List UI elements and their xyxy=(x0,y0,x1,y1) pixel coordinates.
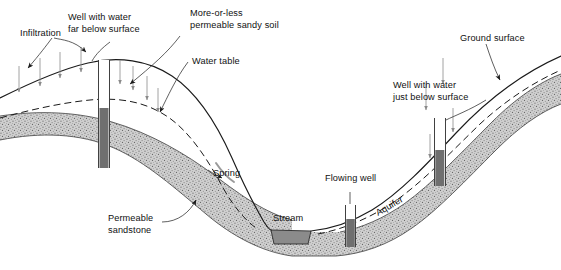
label-stream: Stream xyxy=(273,213,303,223)
label-well-far-below-line1: Well with water xyxy=(68,12,131,22)
label-water-table: Water table xyxy=(192,56,240,66)
well-water-just-below-surface[interactable] xyxy=(434,118,446,186)
stream-channel xyxy=(271,230,311,244)
leader-permeable-sandstone xyxy=(162,200,196,222)
aquifer-band xyxy=(0,74,561,256)
label-permeable-sandstone-line1: Permeable xyxy=(108,213,153,223)
well-water-far-below-surface[interactable] xyxy=(98,60,110,168)
label-flowing-well: Flowing well xyxy=(325,173,376,183)
leader-water-table xyxy=(160,62,188,112)
flowing-well[interactable] xyxy=(345,205,356,247)
right-well-water-column xyxy=(435,150,444,186)
label-sandy-soil-line1: More-or-less xyxy=(190,8,243,18)
label-ground-surface: Ground surface xyxy=(460,33,525,43)
leader-ground-surface xyxy=(486,44,500,80)
leader-well-far-below xyxy=(92,42,110,61)
permeable-sandstone-aquifer-layer xyxy=(0,74,561,256)
label-right-well-line1: Well with water xyxy=(393,80,456,90)
label-right-well-line2: just below surface xyxy=(392,92,468,102)
label-spring: Spring xyxy=(213,168,240,178)
label-permeable-sandstone-line2: sandstone xyxy=(108,225,151,235)
label-infiltration: Infiltration xyxy=(20,28,61,38)
diagram-canvas: Infiltration Well with water far below s… xyxy=(0,0,561,270)
well-water-column xyxy=(100,108,109,168)
stream-water xyxy=(271,230,311,244)
label-well-far-below-line2: far below surface xyxy=(68,24,140,34)
label-sandy-soil-line2: permeable sandy soil xyxy=(190,20,279,30)
groundwater-diagram: Infiltration Well with water far below s… xyxy=(0,0,561,270)
flowing-well-water-column xyxy=(346,219,355,247)
